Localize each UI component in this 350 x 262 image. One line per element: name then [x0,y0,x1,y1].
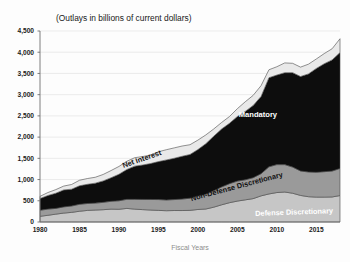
y-tick-label: 4,500 [17,27,34,35]
chart-title: (Outlays in billions of current dollars) [56,13,192,23]
y-tick-label: 2,000 [17,133,34,141]
x-tick-label: 2015 [309,226,324,233]
x-tick-label: 2000 [191,226,206,233]
stacked-area-chart: (Outlays in billions of current dollars)… [0,0,350,262]
x-tick-label: 2010 [270,226,285,233]
y-tick-label: 500 [23,197,34,204]
x-tick-label: 1995 [151,226,166,233]
y-tick-label: 1,000 [17,176,34,184]
chart-container: (Outlays in billions of current dollars)… [0,0,350,262]
x-tick-label: 1990 [112,226,127,233]
x-axis-label: Fiscal Years [171,244,209,251]
y-tick-label: 3,500 [17,70,34,78]
y-tick-label: 4,000 [17,49,34,57]
y-tick-label: 0 [30,218,34,225]
y-tick-label: 2,500 [17,112,34,120]
x-tick-label: 1985 [72,226,87,233]
x-tick-label: 1980 [33,226,48,233]
x-tick-label: 2005 [230,226,245,233]
y-tick-label: 1,500 [17,155,34,163]
y-tick-label: 3,000 [17,91,34,99]
series-label-mandatory: Mandatory [239,110,278,119]
